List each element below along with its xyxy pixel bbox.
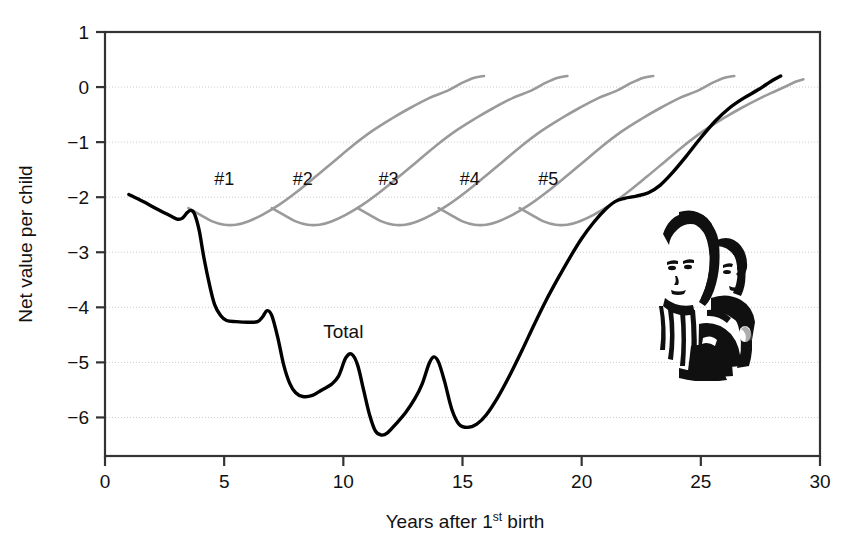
child-2-label: #2 <box>293 169 313 189</box>
series-line-child-3 <box>358 76 654 225</box>
x-tick-label: 15 <box>452 471 473 492</box>
family-photo <box>645 206 765 381</box>
y-tick-label: 0 <box>78 77 89 98</box>
family-photo-artwork <box>645 206 765 381</box>
x-tick-label: 20 <box>571 471 592 492</box>
y-tick-label: −6 <box>67 407 89 428</box>
y-tick-label: −5 <box>67 352 89 373</box>
child-3-label: #3 <box>379 169 399 189</box>
child-4-label: #4 <box>460 169 480 189</box>
chart-root: 051015202530 10−1−2−3−4−5−6 #1#2#3#4#5To… <box>0 0 851 550</box>
series-line-child-2 <box>272 76 568 225</box>
x-axis-title-tail: birth <box>502 511 544 532</box>
y-tick-label: −2 <box>67 187 89 208</box>
y-axis-title: Net value per child <box>15 165 36 322</box>
y-axis-ticks: 10−1−2−3−4−5−6 <box>67 22 105 428</box>
y-tick-label: −4 <box>67 297 89 318</box>
child-5-label: #5 <box>538 169 558 189</box>
x-axis-title-main: Years after 1 <box>386 511 493 532</box>
x-tick-label: 0 <box>100 471 111 492</box>
x-axis-ticks: 051015202530 <box>100 456 831 492</box>
series-line-child-5 <box>520 79 804 225</box>
child-1-label: #1 <box>214 169 234 189</box>
x-tick-label: 25 <box>690 471 711 492</box>
y-tick-label: −3 <box>67 242 89 263</box>
x-tick-label: 10 <box>333 471 354 492</box>
x-tick-label: 5 <box>219 471 230 492</box>
y-tick-label: 1 <box>78 22 89 43</box>
series-line-child-1 <box>188 76 484 225</box>
y-tick-label: −1 <box>67 132 89 153</box>
x-axis-title: Years after 1st birth <box>386 510 545 532</box>
annotation-group: #1#2#3#4#5Total <box>214 169 558 343</box>
x-tick-label: 30 <box>809 471 830 492</box>
total-label: Total <box>323 321 363 342</box>
